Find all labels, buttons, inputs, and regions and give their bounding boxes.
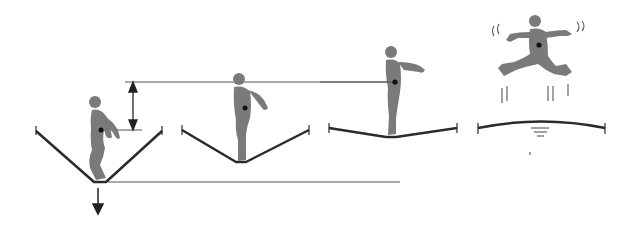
stage-4-figure: [498, 15, 572, 76]
vibration-marks-icon: [530, 128, 549, 155]
stage-1-com-dot: [99, 128, 104, 133]
stage-2-figure: [233, 73, 268, 161]
down-arrow-icon: [93, 188, 103, 214]
height-arrow-icon: [129, 82, 137, 130]
trampoline-diagram: [0, 0, 635, 226]
stage-1-figure: [89, 96, 120, 180]
stage-3-figure: [385, 46, 425, 135]
stage-3-com-dot: [392, 79, 397, 84]
stage-2-com-dot: [243, 106, 248, 111]
stage-4-com-dot: [536, 42, 541, 47]
